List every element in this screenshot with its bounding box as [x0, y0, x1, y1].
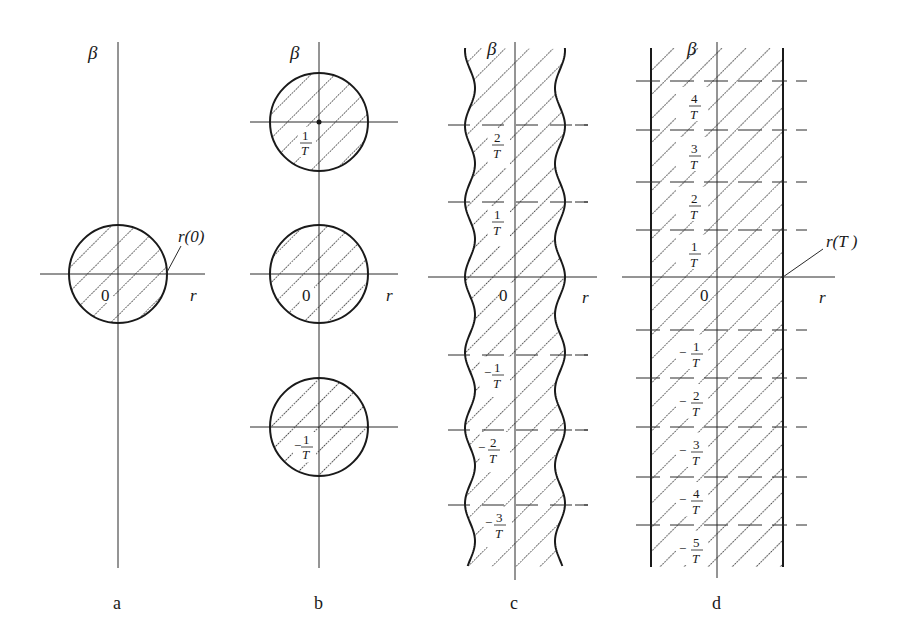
panel-label-d: d [712, 593, 721, 613]
svg-text:1: 1 [494, 207, 501, 222]
r-label: r [582, 288, 589, 307]
r-label: r [190, 286, 197, 305]
beta-label: β [486, 38, 497, 59]
panel-b: β r 0 1 T − 1 T b [250, 42, 398, 613]
svg-text:1: 1 [302, 128, 309, 143]
svg-text:−: − [484, 365, 491, 380]
svg-text:T: T [692, 502, 700, 517]
svg-text:2: 2 [691, 191, 698, 206]
svg-text:T: T [489, 451, 497, 466]
svg-text:T: T [495, 526, 503, 541]
svg-text:−: − [679, 443, 686, 458]
svg-text:T: T [692, 404, 700, 419]
svg-text:3: 3 [693, 437, 700, 452]
svg-text:2: 2 [693, 388, 700, 403]
origin-label: 0 [499, 286, 508, 305]
origin-label: 0 [700, 286, 709, 305]
svg-text:−: − [679, 541, 686, 556]
rT-annotation: r(T ) [826, 232, 858, 251]
svg-text:4: 4 [691, 91, 698, 106]
svg-text:T: T [493, 223, 501, 238]
svg-text:5: 5 [693, 535, 700, 550]
svg-text:T: T [690, 107, 698, 122]
svg-text:T: T [692, 551, 700, 566]
svg-text:T: T [690, 207, 698, 222]
annotation-leader [166, 246, 181, 274]
beta-label: β [87, 42, 98, 63]
panel-label-b: b [314, 593, 323, 613]
origin-label: 0 [302, 286, 311, 305]
svg-text:2: 2 [490, 435, 497, 450]
panel-a: β r 0 r(0) a [40, 42, 205, 613]
svg-text:T: T [690, 157, 698, 172]
svg-text:T: T [690, 255, 698, 270]
beta-label: β [289, 42, 300, 63]
svg-text:T: T [493, 376, 501, 391]
svg-text:−: − [679, 345, 686, 360]
svg-text:−: − [485, 515, 492, 530]
panel-d: β r 0 r(T ) 4T3T2T1T−1T−2T−3T−4T−5T d [622, 38, 858, 613]
svg-text:−: − [294, 438, 301, 453]
svg-text:2: 2 [494, 130, 501, 145]
svg-text:4: 4 [693, 486, 700, 501]
svg-text:T: T [692, 355, 700, 370]
svg-text:−: − [478, 440, 485, 455]
svg-text:T: T [692, 453, 700, 468]
figure-canvas: β r 0 r(0) a β r 0 1 T − 1 [0, 0, 905, 639]
r-label: r [819, 288, 826, 307]
panel-label-a: a [113, 593, 121, 613]
svg-text:−: − [679, 492, 686, 507]
origin-label: 0 [101, 286, 110, 305]
r0-annotation: r(0) [178, 227, 205, 246]
svg-text:1: 1 [303, 432, 310, 447]
panel-label-c: c [510, 593, 518, 613]
svg-text:1: 1 [693, 339, 700, 354]
svg-text:1: 1 [691, 239, 698, 254]
r-label: r [386, 286, 393, 305]
svg-text:1: 1 [494, 360, 501, 375]
svg-text:3: 3 [691, 141, 698, 156]
panel-c: β r 0 2 T 1 T − 1 T − 2 T − 3 T [428, 38, 597, 613]
svg-text:−: − [679, 394, 686, 409]
center-dot [317, 120, 322, 125]
svg-text:T: T [493, 146, 501, 161]
beta-label: β [686, 38, 697, 59]
annotation-leader [783, 249, 823, 277]
svg-text:3: 3 [496, 510, 503, 525]
svg-text:T: T [302, 447, 310, 462]
svg-text:T: T [301, 143, 309, 158]
